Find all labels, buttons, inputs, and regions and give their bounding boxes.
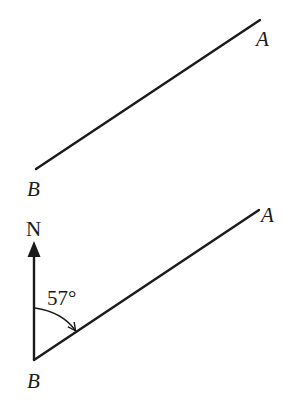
- north-label: N: [26, 217, 41, 241]
- north-arrow-icon: [28, 241, 41, 257]
- bottom-diagram: N 57° A B: [26, 203, 274, 393]
- line-segment-ab-bottom: [34, 210, 259, 360]
- top-diagram: A B: [27, 20, 269, 201]
- bearing-diagram: A B N 57° A B: [0, 0, 299, 405]
- point-a-label-bottom: A: [259, 203, 274, 227]
- bearing-angle-label: 57°: [47, 286, 76, 310]
- point-a-label-top: A: [254, 27, 269, 51]
- point-b-label-bottom: B: [27, 369, 40, 393]
- bearing-angle-arc: [35, 308, 75, 330]
- point-b-label-top: B: [27, 177, 40, 201]
- line-segment-ab-top: [36, 20, 260, 169]
